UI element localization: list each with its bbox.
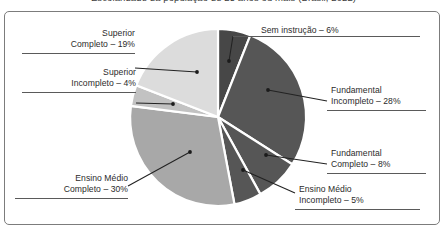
- label-sem-instrucao: Sem instrução – 6%: [261, 25, 339, 36]
- label-superior-incompleto: Superior Incompleto – 4%: [22, 67, 136, 89]
- label-fundamental-completo-line2: Completo – 8%: [331, 159, 390, 170]
- label-ensino-medio-completo-line2: Completo – 30%: [15, 184, 128, 195]
- label-superior-completo-line2: Completo – 19%: [22, 39, 135, 50]
- label-ensino-medio-incompleto-line1: Ensino Médio: [299, 184, 364, 195]
- label-superior-completo: Superior Completo – 19%: [22, 28, 135, 50]
- label-fundamental-incompleto-line1: Fundamental: [331, 85, 401, 96]
- label-sem-instrucao-line1: Sem instrução – 6%: [261, 25, 339, 36]
- label-fundamental-completo-line1: Fundamental: [331, 148, 390, 159]
- label-fundamental-incompleto-line2: Incompleto – 28%: [331, 96, 401, 107]
- label-superior-completo-line1: Superior: [22, 28, 135, 39]
- label-superior-incompleto-line1: Superior: [22, 67, 136, 78]
- figure-title-strip: Escolaridade da população de 25 anos ou …: [0, 0, 447, 9]
- pie-chart-figure: Escolaridade da população de 25 anos ou …: [0, 0, 447, 233]
- figure-title: Escolaridade da população de 25 anos ou …: [91, 0, 356, 3]
- label-ensino-medio-completo: Ensino Médio Completo – 30%: [15, 173, 128, 195]
- label-ensino-medio-incompleto-line2: Incompleto – 5%: [299, 195, 364, 206]
- label-ensino-medio-incompleto: Ensino Médio Incompleto – 5%: [299, 184, 364, 206]
- label-ensino-medio-completo-line1: Ensino Médio: [15, 173, 128, 184]
- label-fundamental-completo: Fundamental Completo – 8%: [331, 148, 390, 170]
- label-superior-incompleto-line2: Incompleto – 4%: [22, 78, 136, 89]
- label-fundamental-incompleto: Fundamental Incompleto – 28%: [331, 85, 401, 107]
